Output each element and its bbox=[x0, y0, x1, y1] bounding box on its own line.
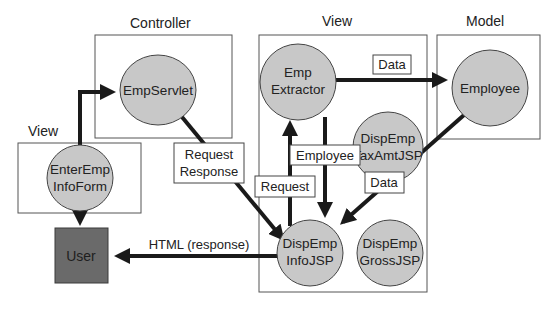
model-title: Model bbox=[466, 13, 504, 29]
label-request: Request bbox=[255, 176, 315, 197]
node-label: Emp bbox=[284, 65, 312, 80]
user-label: User bbox=[66, 248, 96, 264]
label-data-employee-info-jsp: Data bbox=[365, 172, 404, 193]
label-request-response: Request Response bbox=[174, 143, 244, 183]
node-employee: Employee bbox=[452, 50, 528, 126]
view-left-title: View bbox=[28, 123, 59, 139]
node-disp-emp-gross-jsp: DispEmp GrossJSP bbox=[357, 220, 423, 286]
node-label: EmpServlet bbox=[123, 83, 193, 98]
node-label: Extractor bbox=[271, 82, 326, 97]
node-user: User bbox=[55, 228, 108, 283]
node-label: DispEmp bbox=[283, 236, 338, 251]
node-label: InfoForm bbox=[53, 179, 107, 194]
node-label: GrossJSP bbox=[360, 253, 421, 268]
svg-text:Employee: Employee bbox=[296, 148, 354, 163]
node-emp-servlet: EmpServlet bbox=[120, 55, 196, 125]
svg-text:Response: Response bbox=[180, 164, 239, 179]
view-center-title: View bbox=[322, 13, 353, 29]
label-employee: Employee bbox=[290, 145, 360, 165]
node-label: EnterEmp bbox=[50, 162, 110, 177]
label-data-extractor-employee: Data bbox=[373, 55, 411, 74]
node-label: InfoJSP bbox=[286, 253, 333, 268]
controller-title: Controller bbox=[130, 15, 191, 31]
node-label: TaxAmtJSP bbox=[353, 148, 423, 163]
label-html-response: HTML (response) bbox=[149, 237, 250, 252]
node-label: Employee bbox=[460, 81, 520, 96]
node-emp-extractor: Emp Extractor bbox=[260, 44, 336, 120]
node-disp-emp-info-jsp: DispEmp InfoJSP bbox=[277, 220, 343, 286]
node-enter-emp-info-form: EnterEmp InfoForm bbox=[47, 145, 113, 211]
svg-text:Data: Data bbox=[378, 57, 406, 72]
node-label: DispEmp bbox=[363, 236, 418, 251]
mvc-diagram: Controller View View Model EmpServlet bbox=[0, 0, 555, 309]
node-label: DispEmp bbox=[361, 131, 416, 146]
svg-text:Request: Request bbox=[261, 179, 310, 194]
svg-text:Data: Data bbox=[370, 175, 398, 190]
svg-text:Request: Request bbox=[185, 147, 234, 162]
